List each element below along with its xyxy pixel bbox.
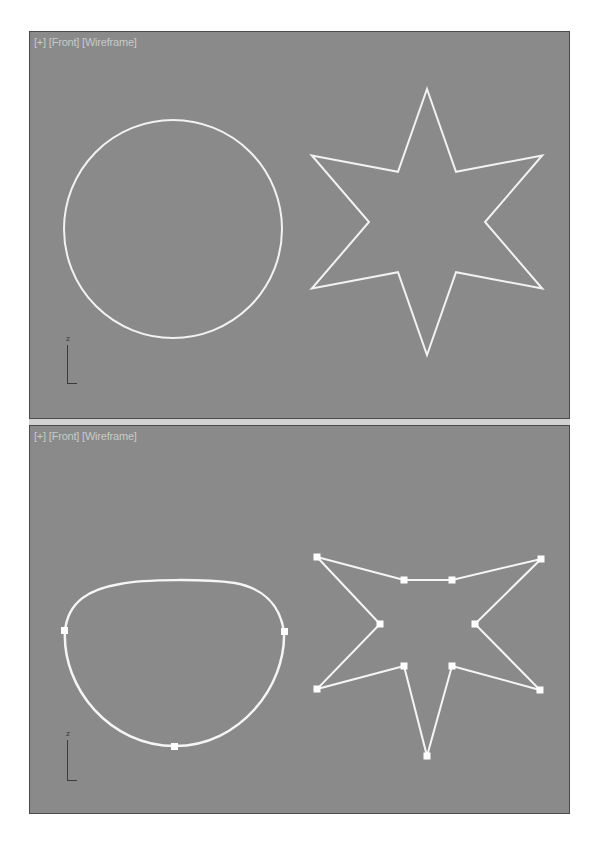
vertex-handle[interactable]: [314, 686, 321, 693]
axis-x-line: [67, 780, 77, 781]
axis-z-label: z: [66, 729, 70, 738]
vertex-handle[interactable]: [538, 556, 545, 563]
vertex-handle[interactable]: [314, 554, 321, 561]
vertex-handle[interactable]: [424, 753, 431, 760]
star-spline[interactable]: [312, 89, 542, 355]
vertex-handle[interactable]: [171, 743, 178, 750]
vertex-handle[interactable]: [377, 621, 384, 628]
front-viewport-top[interactable]: [+] [Front] [Wireframe] z: [29, 31, 570, 419]
axis-z-line: [67, 740, 68, 780]
vertex-handle[interactable]: [449, 577, 456, 584]
vertex-handle[interactable]: [401, 577, 408, 584]
axis-x-line: [67, 383, 77, 384]
vertex-handle[interactable]: [401, 663, 408, 670]
viewport-scene-bottom: [30, 426, 570, 814]
edited-circle-spline[interactable]: [65, 580, 284, 746]
vertex-handle[interactable]: [449, 663, 456, 670]
vertex-handle[interactable]: [61, 627, 68, 634]
viewport-scene-top: [30, 32, 570, 419]
axis-z-label: z: [66, 334, 70, 343]
axis-z-line: [67, 345, 68, 383]
vertex-handle[interactable]: [537, 687, 544, 694]
edited-circle-vertices: [61, 627, 288, 750]
edited-star-spline[interactable]: [317, 557, 541, 756]
vertex-handle[interactable]: [472, 621, 479, 628]
vertex-handle[interactable]: [281, 628, 288, 635]
front-viewport-bottom[interactable]: [+] [Front] [Wireframe] z: [29, 425, 570, 814]
circle-spline[interactable]: [64, 120, 282, 338]
